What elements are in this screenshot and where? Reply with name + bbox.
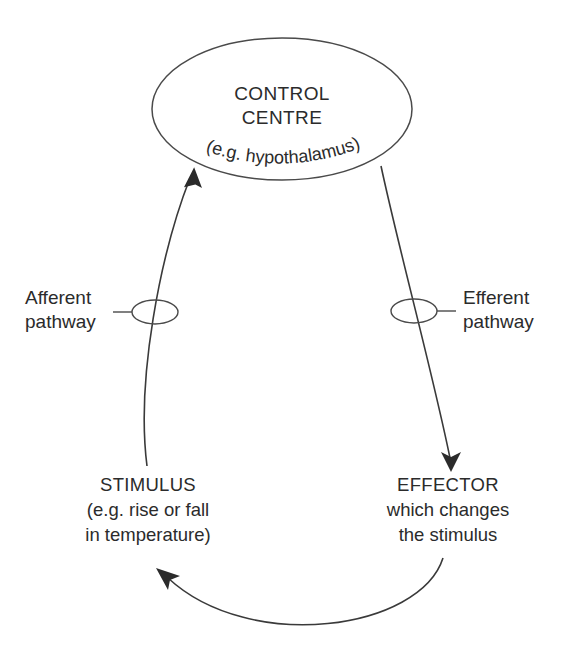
diagram-canvas: CONTROL CENTRE (e.g. hypothalamus) Affer… [0, 0, 570, 662]
afferent-arrowhead-icon [184, 166, 204, 189]
control-centre-line3: (e.g. hypothalamus) [204, 133, 362, 168]
efferent-label-line1: Efferent [463, 287, 530, 308]
effector-line3: the stimulus [399, 524, 498, 545]
stimulus-line3: in temperature) [85, 524, 210, 545]
control-centre-line2: CENTRE [242, 107, 323, 128]
efferent-label-line2: pathway [463, 311, 534, 332]
afferent-label-line1: Afferent [25, 287, 92, 308]
effector-line1: EFFECTOR [397, 474, 499, 495]
stimulus-line2: (e.g. rise or fall [87, 499, 209, 520]
homeostasis-diagram: CONTROL CENTRE (e.g. hypothalamus) Affer… [0, 0, 570, 662]
feedback-loop-curve [168, 558, 443, 625]
stimulus-line1: STIMULUS [100, 474, 196, 495]
efferent-arrowhead-icon [441, 452, 461, 472]
afferent-label-line2: pathway [25, 311, 96, 332]
feedback-arrowhead-icon [156, 568, 180, 590]
effector-line2: which changes [386, 499, 509, 520]
control-centre-line1: CONTROL [234, 83, 330, 104]
